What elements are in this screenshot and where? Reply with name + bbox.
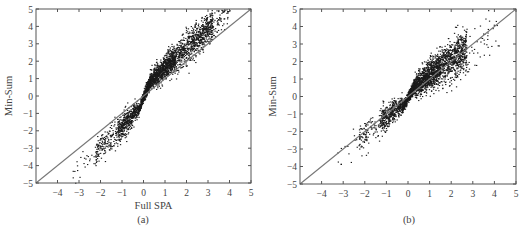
svg-text:0: 0: [406, 189, 411, 199]
svg-text:−4: −4: [52, 188, 62, 198]
svg-text:−1: −1: [287, 110, 297, 120]
svg-text:1: 1: [427, 189, 432, 199]
x-axis-ticks: −4−3−2−1012345: [317, 9, 519, 199]
svg-text:2: 2: [292, 57, 297, 67]
svg-text:5: 5: [292, 5, 297, 15]
caption-b: (b): [389, 214, 429, 225]
svg-text:−5: −5: [23, 179, 33, 189]
svg-text:4: 4: [292, 22, 297, 32]
y-axis-label: Min-Sum: [3, 76, 14, 116]
chart-panel-a: −4−3−2−1012345−5−4−3−2−1012345Min-SumFul…: [0, 0, 262, 231]
svg-text:3: 3: [206, 188, 211, 198]
reference-line-y-equals-x: [300, 9, 516, 184]
svg-text:0: 0: [292, 92, 297, 102]
svg-text:1: 1: [163, 188, 168, 198]
svg-text:−2: −2: [360, 189, 370, 199]
svg-text:3: 3: [28, 39, 33, 49]
svg-text:4: 4: [227, 188, 232, 198]
svg-text:1: 1: [28, 74, 33, 84]
svg-text:1: 1: [292, 75, 297, 85]
svg-text:5: 5: [28, 5, 33, 15]
x-axis-label: Full SPA: [135, 200, 173, 211]
svg-text:−4: −4: [287, 162, 297, 172]
svg-text:2: 2: [449, 189, 454, 199]
svg-text:0: 0: [28, 92, 33, 102]
svg-text:−3: −3: [287, 145, 297, 155]
scatter-points: [73, 9, 231, 183]
svg-text:0: 0: [141, 188, 146, 198]
svg-text:−1: −1: [23, 109, 33, 119]
y-axis-label: Min-Sum: [267, 76, 278, 116]
svg-text:3: 3: [292, 40, 297, 50]
svg-text:−3: −3: [338, 189, 348, 199]
caption-a: (a): [123, 214, 163, 225]
svg-text:−4: −4: [317, 189, 327, 199]
svg-text:−3: −3: [23, 144, 33, 154]
scatter-plot-b: −4−3−2−1012345−5−4−3−2−1012345Min-Sum: [262, 0, 524, 231]
svg-text:−2: −2: [23, 126, 33, 136]
reference-line-y-equals-x: [36, 9, 251, 183]
svg-text:−2: −2: [287, 127, 297, 137]
svg-text:2: 2: [184, 188, 189, 198]
svg-text:−1: −1: [381, 189, 391, 199]
svg-text:−1: −1: [117, 188, 127, 198]
scatter-plot-a: −4−3−2−1012345−5−4−3−2−1012345Min-SumFul…: [0, 0, 262, 231]
svg-text:−3: −3: [74, 188, 84, 198]
svg-text:5: 5: [514, 189, 519, 199]
svg-text:−4: −4: [23, 161, 33, 171]
x-axis-ticks: −4−3−2−1012345: [52, 9, 253, 198]
svg-text:3: 3: [470, 189, 475, 199]
svg-text:4: 4: [28, 22, 33, 32]
svg-text:2: 2: [28, 57, 33, 67]
svg-text:5: 5: [249, 188, 254, 198]
svg-text:−2: −2: [95, 188, 105, 198]
svg-text:−5: −5: [287, 180, 297, 190]
svg-text:4: 4: [492, 189, 497, 199]
chart-panel-b: −4−3−2−1012345−5−4−3−2−1012345Min-Sum: [262, 0, 524, 231]
y-axis-ticks: −5−4−3−2−1012345: [287, 5, 516, 190]
